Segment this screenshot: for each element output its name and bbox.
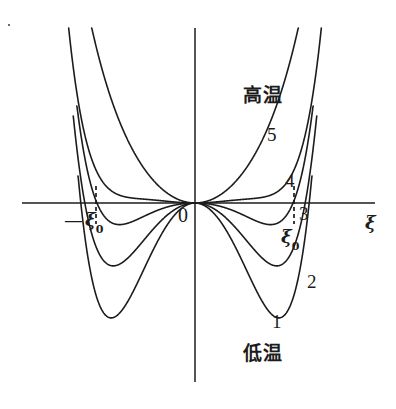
high-temperature-label: 高温 [243,86,283,105]
figure-root: 高温 5 4 3 2 1 低温 0 —ξ0 ξ0 ξ [0,0,396,409]
curve-2-left [73,116,195,266]
curve-label-2: 2 [307,272,317,291]
curve-label-1: 1 [272,312,282,331]
curve-4-left [69,28,195,203]
curve-label-3: 3 [299,204,309,223]
free-energy-plot [0,0,396,409]
positive-xi0-symbol: ξ [281,226,292,247]
negative-xi0-subscript: 0 [96,223,104,236]
curve-5-left [92,28,195,203]
origin-label: 0 [178,205,188,225]
figure-caption-cropped [0,400,396,408]
positive-xi0-subscript: 0 [292,240,300,253]
negative-xi0-minus-sign: — [65,211,82,230]
curve-label-5: 5 [267,125,277,144]
negative-xi0-label: —ξ0 [65,211,103,232]
low-temperature-label: 低温 [243,344,283,363]
negative-xi0-symbol: ξ [85,209,96,230]
curve-4-right [195,28,321,203]
curve-label-4: 4 [285,171,295,190]
positive-xi0-label: ξ0 [281,228,299,249]
curve-5-right [195,28,298,203]
x-axis-label: ξ [365,214,376,232]
